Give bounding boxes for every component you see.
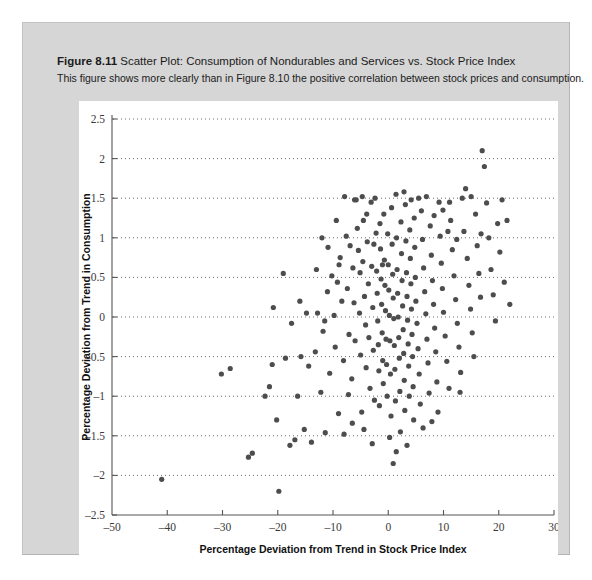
data-point [363, 322, 368, 327]
data-point [314, 267, 319, 272]
data-point [439, 261, 444, 266]
data-point [443, 333, 448, 338]
data-point [364, 365, 369, 370]
data-point [404, 270, 409, 275]
y-tick-label: 0 [99, 311, 105, 323]
data-point [399, 251, 404, 256]
data-point [394, 235, 399, 240]
x-tick-label: –20 [268, 521, 287, 533]
data-point [287, 443, 292, 448]
data-point [396, 335, 401, 340]
data-point [384, 362, 389, 367]
data-point [502, 280, 507, 285]
data-point [325, 245, 330, 250]
data-point [327, 371, 332, 376]
data-point [376, 368, 381, 373]
data-point [504, 218, 509, 223]
data-point [455, 321, 460, 326]
data-point [407, 227, 412, 232]
data-point [365, 239, 370, 244]
figure-caption-block: Figure 8.11 Scatter Plot: Consumption of… [57, 53, 577, 86]
data-point [357, 270, 362, 275]
data-point [369, 264, 374, 269]
plot-canvas: –50–40–30–20–100102030 –2.5–2–1.5–1–0.50… [79, 101, 558, 560]
data-point [306, 364, 311, 369]
data-point [358, 352, 363, 357]
data-point [386, 262, 391, 267]
data-point [362, 294, 367, 299]
data-point [380, 358, 385, 363]
data-point [349, 376, 354, 381]
data-point [378, 246, 383, 251]
data-point [271, 305, 276, 310]
data-point [419, 208, 424, 213]
data-point [388, 371, 393, 376]
data-point [348, 243, 353, 248]
data-point [332, 313, 337, 318]
data-point [412, 215, 417, 220]
data-point [360, 194, 365, 199]
data-point [381, 211, 386, 216]
data-point [447, 200, 452, 205]
data-point [468, 306, 473, 311]
data-point [495, 221, 500, 226]
data-point [315, 310, 320, 315]
data-point [448, 218, 453, 223]
x-tick-label: 0 [385, 521, 391, 533]
y-tick-label: –1 [93, 390, 106, 402]
data-point [427, 390, 432, 395]
data-point [461, 229, 466, 234]
data-point [379, 302, 384, 307]
figure-title-text: Scatter Plot: Consumption of Nondurables… [120, 55, 515, 67]
x-tick-label: 30 [548, 521, 558, 533]
data-point [389, 205, 394, 210]
data-point [403, 238, 408, 243]
data-point [369, 200, 374, 205]
x-tick-label: 10 [438, 521, 450, 533]
data-point [309, 440, 314, 445]
data-point [289, 321, 294, 326]
data-point [361, 218, 366, 223]
data-point [364, 211, 369, 216]
data-point [415, 346, 420, 351]
data-point [441, 310, 446, 315]
data-point [409, 197, 414, 202]
data-point [420, 237, 425, 242]
figure-caption-title: Figure 8.11 Scatter Plot: Consumption of… [57, 53, 577, 69]
data-point [497, 249, 502, 254]
data-point [342, 194, 347, 199]
data-point [357, 310, 362, 315]
data-point [433, 349, 438, 354]
data-point [159, 477, 164, 482]
data-point [423, 311, 428, 316]
data-point [486, 235, 491, 240]
data-point [372, 398, 377, 403]
data-point [281, 271, 286, 276]
data-point [387, 313, 392, 318]
data-point [386, 287, 391, 292]
data-point [478, 231, 483, 236]
data-point [507, 302, 512, 307]
data-point [400, 303, 405, 308]
data-point [283, 356, 288, 361]
data-point [458, 370, 463, 375]
data-point [353, 338, 358, 343]
data-point [431, 302, 436, 307]
y-tick-label: 2 [99, 153, 105, 165]
x-tick-label: –30 [213, 521, 232, 533]
data-point [367, 386, 372, 391]
x-tick-label: –10 [323, 521, 342, 533]
data-point [391, 461, 396, 466]
data-point [335, 280, 340, 285]
data-point [406, 341, 411, 346]
data-point [429, 253, 434, 258]
figure-caption-subtitle: This figure shows more clearly than in F… [57, 71, 577, 86]
data-point [417, 371, 422, 376]
data-point [313, 349, 318, 354]
data-points [159, 148, 512, 494]
data-point [322, 318, 327, 323]
data-point [410, 354, 415, 359]
data-point [416, 196, 421, 201]
data-point [402, 378, 407, 383]
data-point [270, 362, 275, 367]
